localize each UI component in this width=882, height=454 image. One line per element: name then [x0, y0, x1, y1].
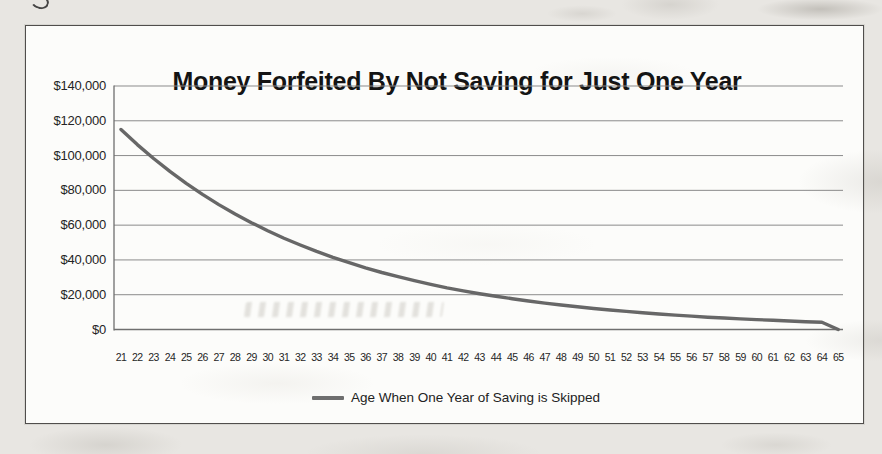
x-axis-tick-label: 63: [797, 351, 815, 363]
x-axis-tick-label: 39: [405, 351, 423, 363]
x-axis-tick-label: 60: [748, 351, 766, 363]
y-axis-tick-label: $40,000: [18, 252, 106, 267]
y-axis-tick-label: $100,000: [18, 148, 106, 163]
x-axis-tick-label: 65: [829, 351, 847, 363]
legend-line-marker: [312, 396, 344, 400]
scanned-page: Money Forfeited By Not Saving for Just O…: [0, 0, 882, 454]
x-axis-tick-label: 49: [568, 351, 586, 363]
x-axis-tick-label: 31: [275, 351, 293, 363]
x-axis-tick-label: 26: [194, 351, 212, 363]
x-axis-tick-label: 35: [340, 351, 358, 363]
x-axis-tick-label: 50: [585, 351, 603, 363]
x-axis-tick-label: 62: [780, 351, 798, 363]
x-axis-tick-label: 21: [112, 351, 130, 363]
x-axis-tick-label: 43: [471, 351, 489, 363]
x-axis-tick-label: 53: [634, 351, 652, 363]
x-axis-tick-label: 47: [536, 351, 554, 363]
ink-mark-artifact: [30, 0, 51, 11]
x-axis-tick-label: 33: [308, 351, 326, 363]
x-axis-tick-label: 32: [291, 351, 309, 363]
scan-bleed-artifact: [244, 302, 444, 317]
x-axis-tick-label: 40: [422, 351, 440, 363]
legend: Age When One Year of Saving is Skipped: [30, 390, 882, 405]
x-axis-tick-label: 46: [520, 351, 538, 363]
x-axis-tick-label: 24: [161, 351, 179, 363]
legend-label: Age When One Year of Saving is Skipped: [351, 390, 600, 405]
y-axis-tick-label: $60,000: [18, 217, 106, 232]
x-axis-tick-label: 52: [617, 351, 635, 363]
x-axis-tick-label: 44: [487, 351, 505, 363]
x-axis-tick-label: 37: [373, 351, 391, 363]
x-axis-tick-label: 56: [683, 351, 701, 363]
x-axis-tick-label: 59: [731, 351, 749, 363]
x-axis-tick-label: 30: [259, 351, 277, 363]
x-axis-tick-label: 42: [454, 351, 472, 363]
x-axis-tick-label: 41: [438, 351, 456, 363]
x-axis-tick-label: 57: [699, 351, 717, 363]
x-axis-tick-label: 36: [357, 351, 375, 363]
x-axis-tick-label: 64: [813, 351, 831, 363]
x-axis-tick-label: 27: [210, 351, 228, 363]
chart-frame: Money Forfeited By Not Saving for Just O…: [25, 25, 864, 424]
x-axis-tick-label: 38: [389, 351, 407, 363]
x-axis-tick-label: 29: [242, 351, 260, 363]
chart-title: Money Forfeited By Not Saving for Just O…: [76, 67, 838, 96]
y-axis-tick-label: $0: [18, 322, 106, 337]
x-axis-tick-label: 51: [601, 351, 619, 363]
x-axis-tick-label: 25: [177, 351, 195, 363]
y-axis-tick-label: $80,000: [18, 182, 106, 197]
x-axis-tick-label: 54: [650, 351, 668, 363]
x-axis-tick-label: 48: [552, 351, 570, 363]
y-axis-tick-label: $120,000: [18, 113, 106, 128]
x-axis-tick-label: 61: [764, 351, 782, 363]
y-axis-tick-label: $20,000: [18, 287, 106, 302]
x-axis-tick-label: 28: [226, 351, 244, 363]
x-axis-tick-label: 34: [324, 351, 342, 363]
x-axis-tick-label: 45: [503, 351, 521, 363]
x-axis-tick-label: 23: [145, 351, 163, 363]
x-axis-tick-label: 58: [715, 351, 733, 363]
x-axis-tick-label: 55: [666, 351, 684, 363]
x-axis-tick-label: 22: [128, 351, 146, 363]
